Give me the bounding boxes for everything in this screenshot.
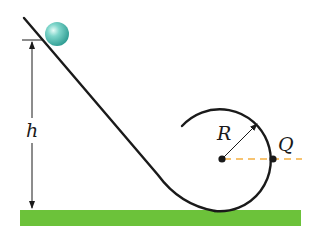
- ground: [20, 210, 301, 226]
- point-q: [269, 155, 276, 162]
- center-point: [218, 155, 225, 162]
- ball: [45, 22, 69, 46]
- loop-the-loop-diagram: h R Q: [0, 0, 309, 231]
- radius-label: R: [216, 122, 231, 144]
- point-q-label: Q: [278, 133, 294, 155]
- height-label: h: [26, 119, 38, 141]
- track-ramp: [24, 18, 215, 211]
